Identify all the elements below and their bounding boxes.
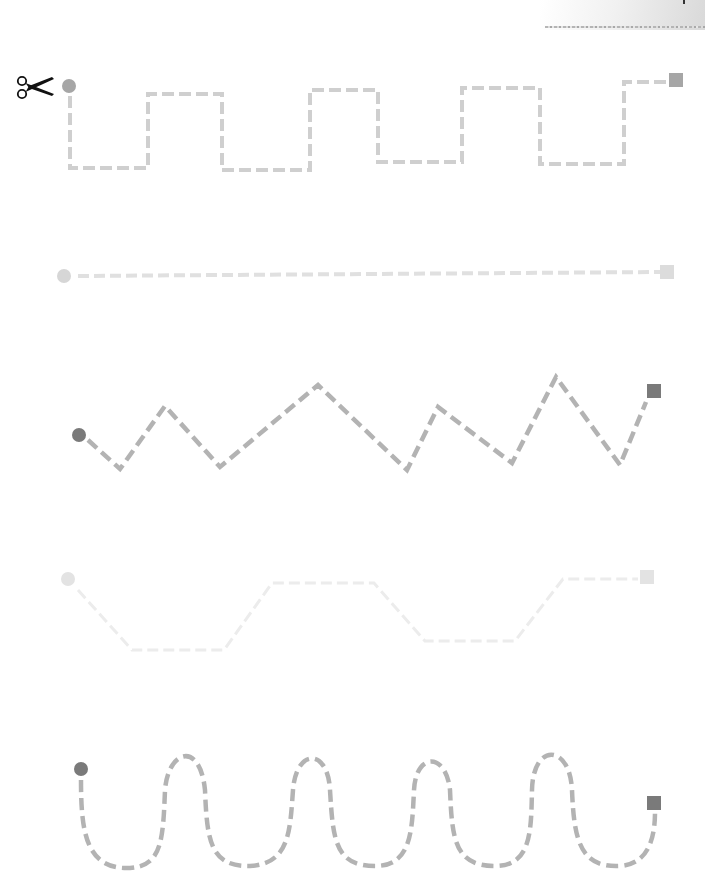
start-dot xyxy=(62,79,76,93)
start-dot xyxy=(57,269,71,283)
path-trapezoid-wave xyxy=(61,570,654,650)
path-straight-line xyxy=(57,265,674,283)
end-square xyxy=(647,384,661,398)
start-dot xyxy=(61,572,75,586)
path-zigzag xyxy=(72,377,661,470)
end-square xyxy=(669,73,683,87)
start-dot xyxy=(74,762,88,776)
end-square xyxy=(640,570,654,584)
path-square-wave xyxy=(62,73,683,170)
tracing-worksheet xyxy=(0,0,705,883)
end-square xyxy=(647,796,661,810)
start-dot xyxy=(72,428,86,442)
path-curvy-wave xyxy=(74,755,661,868)
end-square xyxy=(660,265,674,279)
